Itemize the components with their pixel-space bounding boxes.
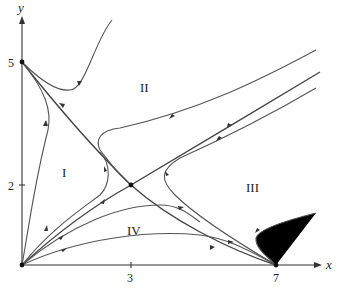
y-axis-arrow-icon <box>19 16 25 24</box>
trajectory-arrow-icon <box>104 166 107 172</box>
separatrix-arrow-icon <box>210 245 215 250</box>
equilibria <box>20 60 279 268</box>
equilibrium-saddle <box>129 183 134 188</box>
y-tick-label-5: 5 <box>8 56 14 70</box>
trajectories-region-II <box>22 20 316 185</box>
trajectories-region-III <box>164 88 316 265</box>
x-tick-label-3: 3 <box>127 271 133 285</box>
x-tick-label-7: 7 <box>273 271 279 285</box>
region-labels: I II III IV <box>62 80 259 238</box>
region-label-II: II <box>140 80 149 95</box>
region-label-IV: IV <box>127 223 141 238</box>
trajectory-arrow-icon <box>255 228 260 233</box>
equilibrium-origin <box>20 263 25 268</box>
region-label-III: III <box>246 180 259 195</box>
phase-portrait-figure: y x 2 5 3 7 <box>0 0 344 295</box>
x-axis-label: x <box>325 257 332 272</box>
trajectories-region-IV <box>22 205 276 265</box>
equilibrium-x7 <box>274 263 279 268</box>
y-tick-label-2: 2 <box>8 179 14 193</box>
y-axis-label: y <box>16 0 24 15</box>
trajectory-arrow-icon <box>58 235 64 240</box>
equilibrium-y5 <box>20 60 25 65</box>
region-label-I: I <box>62 165 66 180</box>
trajectory-arrow-icon <box>43 120 48 126</box>
x-axis-arrow-icon <box>314 262 322 268</box>
trajectory-arrow-icon <box>44 225 48 231</box>
trajectory-arrow-icon <box>165 171 169 176</box>
